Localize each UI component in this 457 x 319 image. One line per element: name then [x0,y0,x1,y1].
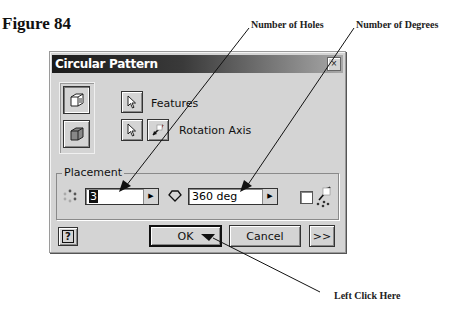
more-label: >> [313,230,331,243]
ok-button[interactable]: OK [149,225,222,247]
cursor-arrow-icon [126,95,138,109]
dialog-titlebar[interactable]: Circular Pattern × [52,55,343,73]
ok-label: OK [178,230,194,243]
pattern-solids-toggle[interactable] [63,86,90,114]
dialog-title: Circular Pattern [55,57,158,71]
close-icon: × [331,58,337,69]
angle-flyout-arrow[interactable]: ▶ [262,189,277,204]
flip-axis-button[interactable] [147,119,169,141]
help-icon: ? [62,230,74,243]
help-button[interactable]: ? [58,227,78,246]
callout-left-click-here: Left Click Here [334,290,400,301]
solid-feature-icon [68,91,86,109]
placement-group: Placement 3 ▶ 360 deg ▶ [56,173,339,220]
placement-legend: Placement [62,166,124,179]
rotation-axis-select-button[interactable] [121,119,143,141]
circular-pattern-dialog: Circular Pattern × Features Rotation Axi… [49,51,346,253]
callout-number-of-holes: Number of Holes [251,19,324,30]
features-select-button[interactable] [121,91,143,113]
fitted-pattern-icon [315,184,333,208]
callout-number-of-degrees: Number of Degrees [356,19,438,30]
count-flyout-arrow[interactable]: ▶ [143,189,158,204]
included-angle-input[interactable]: 360 deg ▶ [188,188,278,205]
pattern-type-group [59,82,95,154]
more-options-button[interactable]: >> [309,225,335,247]
occurrence-count-input[interactable]: 3 ▶ [85,188,159,205]
close-button[interactable]: × [327,57,341,71]
occurrence-count-icon [63,189,77,203]
face-feature-icon [68,125,86,143]
angle-icon [167,189,183,203]
occurrence-count-value: 3 [89,190,98,203]
flip-direction-icon [150,122,166,138]
included-angle-value: 360 deg [192,190,237,203]
pattern-faces-toggle[interactable] [63,120,90,148]
features-label: Features [151,97,198,110]
fitted-checkbox[interactable] [300,191,313,204]
cursor-arrow-icon [126,123,138,137]
cancel-button[interactable]: Cancel [229,225,301,247]
rotation-axis-label: Rotation Axis [179,124,251,137]
cancel-label: Cancel [246,230,283,243]
figure-title: Figure 84 [2,14,71,34]
